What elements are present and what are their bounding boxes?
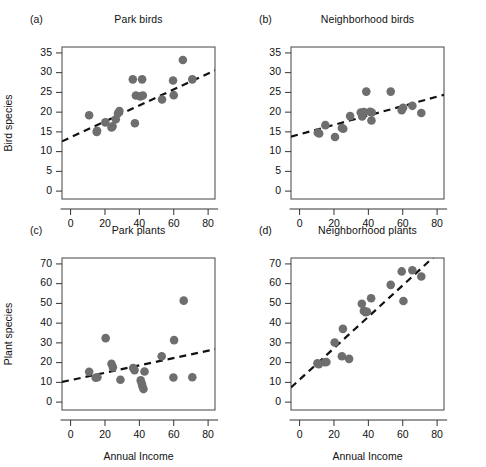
y-tick-label: 35 [40,46,52,58]
y-tick-label: 30 [40,336,52,348]
data-point [169,373,178,382]
y-tick-label: 25 [269,85,281,97]
data-point [363,307,372,316]
y-tick-label: 20 [40,105,52,117]
panel-a: (a)Park birdsBird species051015202530350… [0,0,243,234]
data-point [109,363,118,372]
y-tick-label: 70 [269,257,281,269]
data-point [139,385,148,394]
data-point [339,325,348,334]
data-point [169,91,178,100]
data-point [101,334,110,343]
y-tick-label: 20 [40,355,52,367]
data-point [367,108,376,117]
data-point [85,367,94,376]
y-tick-label: 15 [40,125,52,137]
data-point [115,107,124,116]
data-point [399,297,408,306]
y-tick-label: 35 [269,46,281,58]
data-point [321,121,330,130]
x-tick-label: 60 [397,428,409,440]
y-tick-label: 0 [46,184,52,196]
data-point [169,76,178,85]
data-point [397,267,406,276]
y-tick-label: 40 [269,316,281,328]
data-point [345,355,354,364]
panel-d: (d)Neighborhood plantsAnnual Income01020… [243,234,486,467]
y-tick-label: 10 [40,375,52,387]
data-point [367,116,376,125]
data-point [85,111,94,120]
data-point [408,266,417,275]
y-tick-label: 0 [46,395,52,407]
y-tick-label: 60 [40,276,52,288]
data-point [179,56,188,65]
figure-scatter-matrix: (a)Park birdsBird species051015202530350… [0,0,486,467]
x-tick-label: 80 [202,428,214,440]
data-point [408,102,417,111]
y-tick-label: 5 [46,164,52,176]
data-point [331,133,340,142]
y-tick-label: 30 [40,65,52,77]
y-tick-label: 30 [269,336,281,348]
y-tick-label: 10 [269,375,281,387]
data-point [188,75,197,84]
x-tick-label: 40 [134,428,146,440]
y-tick-label: 10 [269,144,281,156]
y-tick-label: 50 [269,296,281,308]
data-point [322,358,331,367]
data-point [315,129,324,138]
data-point [339,124,348,133]
y-tick-label: 50 [40,296,52,308]
y-tick-label: 15 [269,125,281,137]
data-point [417,272,426,281]
y-tick-label: 0 [275,184,281,196]
x-tick-label: 20 [328,428,340,440]
data-point [130,366,139,375]
y-tick-label: 30 [269,65,281,77]
data-point [138,75,147,84]
y-tick-label: 25 [40,85,52,97]
data-point [157,352,166,361]
y-tick-label: 20 [269,105,281,117]
data-point [399,104,408,113]
y-tick-label: 20 [269,355,281,367]
y-tick-label: 40 [40,316,52,328]
data-point [131,119,140,128]
x-tick-label: 0 [68,428,74,440]
x-tick-label: 40 [363,428,375,440]
y-tick-label: 5 [275,164,281,176]
data-point [367,294,376,303]
y-tick-label: 10 [40,144,52,156]
plot-area-a: 05101520253035020406080 [0,0,243,234]
y-tick-label: 0 [275,395,281,407]
x-tick-label: 80 [431,428,443,440]
x-tick-label: 0 [297,428,303,440]
data-point [346,112,355,121]
plot-area-d: 010203040506070020406080 [243,234,486,467]
data-point [129,75,138,84]
data-point [386,87,395,96]
data-point [179,296,188,305]
panel-b: (b)Neighborhood birds0510152025303502040… [243,0,486,234]
data-point [386,281,395,290]
data-point [138,91,147,100]
y-tick-label: 70 [40,257,52,269]
data-point [330,338,339,347]
data-point [93,373,102,382]
x-tick-label: 60 [168,428,180,440]
data-point [140,367,149,376]
plot-frame [291,47,444,199]
data-point [362,87,371,96]
y-tick-label: 60 [269,276,281,288]
data-point [158,95,167,104]
x-tick-label: 20 [99,428,111,440]
data-point [188,373,197,382]
data-point [170,336,179,345]
data-point [417,109,426,118]
plot-area-b: 05101520253035020406080 [243,0,486,234]
data-point [116,375,125,384]
plot-area-c: 010203040506070020406080 [0,234,243,467]
data-point [93,126,102,135]
trend-line-d [291,257,434,387]
